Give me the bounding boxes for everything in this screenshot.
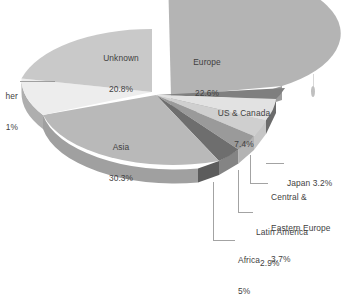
slice-label-us-canada-value: 7.4% [204,139,284,149]
slice-label-asia-name: Asia [90,142,152,152]
slice-label-other: her 1% [0,71,18,153]
slice-label-other-name: her [0,91,18,101]
slice-label-europe-name: Europe [176,57,238,67]
slice-label-unknown: Unknown 20.8% [84,33,158,115]
slice-label-africa-value: 5% [238,286,298,296]
slice-label-asia-value: 30.3% [90,173,152,183]
slice-label-us-canada: US & Canada 7.4% [204,88,284,170]
slice-label-africa: Africa 5% [238,235,298,298]
slice-label-central-eastern-europe-line1: Central & [271,192,355,202]
slice-label-asia: Asia 30.3% [90,122,152,204]
leader-line-africa [213,182,235,240]
slice-label-unknown-name: Unknown [84,53,158,63]
slice-label-other-value: 1% [0,122,18,132]
slice-label-unknown-value: 20.8% [84,84,158,94]
leader-line-latin-america [238,170,253,212]
slice-label-us-canada-name: US & Canada [204,108,284,118]
slice-label-africa-name: Africa [238,255,298,265]
